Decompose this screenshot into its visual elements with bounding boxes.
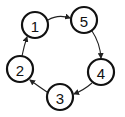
node-label: 5 — [80, 13, 88, 30]
node-label: 1 — [31, 18, 39, 35]
node-3: 3 — [47, 84, 73, 110]
edge-2-to-1 — [22, 37, 27, 56]
cycle-diagram: 1 5 4 3 2 — [0, 0, 125, 117]
node-2: 2 — [7, 56, 33, 82]
node-label: 3 — [56, 90, 64, 107]
node-label: 4 — [97, 65, 105, 82]
edge-5-to-4 — [92, 31, 101, 58]
node-label: 2 — [16, 62, 24, 79]
edge-1-to-5 — [48, 16, 70, 20]
node-1: 1 — [22, 12, 48, 38]
node-5: 5 — [71, 7, 97, 33]
edge-4-to-3 — [74, 83, 92, 94]
node-4: 4 — [88, 59, 114, 85]
edge-3-to-2 — [30, 80, 47, 92]
